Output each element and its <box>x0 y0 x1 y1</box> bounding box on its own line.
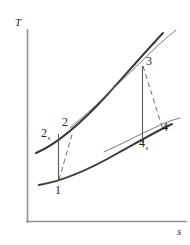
y-axis-label: T <box>15 17 21 28</box>
state-label-2s-text: 2 <box>41 126 47 140</box>
state-label-4s-text: 4 <box>139 136 145 150</box>
state-label-1: 1 <box>55 184 61 196</box>
x-axis-label: s <box>177 226 181 237</box>
state-label-4s: 4s <box>139 137 148 149</box>
high-pressure-isobar-curve <box>36 33 163 153</box>
state-label-2: 2 <box>62 116 68 128</box>
ts-diagram-figure: T s 1 2s 2 3 4 4s <box>0 0 190 245</box>
state-label-2s-subscript: s <box>48 134 51 142</box>
state-label-4s-subscript: s <box>146 144 149 152</box>
state-label-3: 3 <box>146 55 152 67</box>
state-label-2s: 2s <box>41 127 50 139</box>
state-label-4: 4 <box>162 121 168 133</box>
high-pressure-isobar-thin-line <box>70 30 176 128</box>
process-3-4-dashed-line <box>143 66 163 130</box>
